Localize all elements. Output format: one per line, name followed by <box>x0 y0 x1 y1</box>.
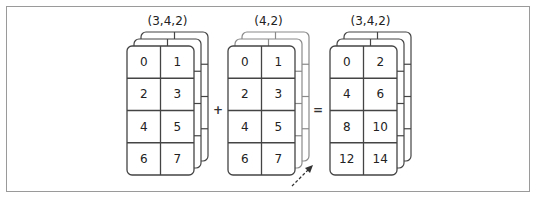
array-cell: 0 <box>140 55 148 69</box>
array-cell: 12 <box>339 152 354 166</box>
array-cell: 6 <box>376 87 384 101</box>
tensor-stack-array-b: 01234567(4,2) <box>228 14 309 175</box>
plus-operator: + <box>213 103 223 117</box>
array-cell: 14 <box>373 152 388 166</box>
array-cell: 6 <box>241 152 249 166</box>
array-cell: 6 <box>140 152 148 166</box>
shape-label: (4,2) <box>254 14 282 28</box>
array-cell: 2 <box>241 87 249 101</box>
tensor-front-layer: 01234567 <box>228 46 295 175</box>
equals-operator: = <box>313 103 323 117</box>
array-cell: 1 <box>173 55 181 69</box>
array-cell: 4 <box>343 87 351 101</box>
array-cell: 0 <box>241 55 249 69</box>
array-cell: 4 <box>140 120 148 134</box>
array-cell: 0 <box>343 55 351 69</box>
tensor-stack-array-a: 01234567(3,4,2) <box>127 14 208 175</box>
tensor-stack-result: 02468101214(3,4,2) <box>330 14 411 175</box>
array-cell: 3 <box>173 87 181 101</box>
shape-label: (3,4,2) <box>148 14 188 28</box>
array-cell: 1 <box>274 55 282 69</box>
array-cell: 10 <box>373 120 388 134</box>
array-cell: 2 <box>140 87 148 101</box>
array-cell: 3 <box>274 87 282 101</box>
array-cell: 5 <box>173 120 181 134</box>
array-cell: 7 <box>274 152 282 166</box>
array-cell: 7 <box>173 152 181 166</box>
shape-label: (3,4,2) <box>351 14 391 28</box>
tensor-front-layer: 01234567 <box>127 46 194 175</box>
array-cell: 2 <box>376 55 384 69</box>
broadcast-diagram: 01234567(3,4,2) 01234567(4,2) 0246810121… <box>0 0 536 199</box>
array-cell: 4 <box>241 120 249 134</box>
array-cell: 5 <box>274 120 282 134</box>
tensor-front-layer: 02468101214 <box>330 46 397 175</box>
array-cell: 8 <box>343 120 351 134</box>
